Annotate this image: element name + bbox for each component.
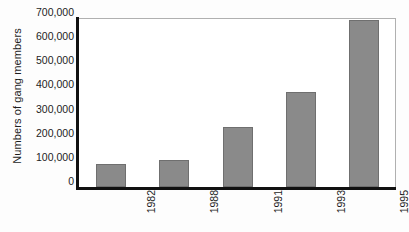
x-axis-tick-label: 1995 bbox=[398, 190, 409, 230]
bar-series-group bbox=[79, 18, 396, 187]
bar bbox=[159, 160, 189, 187]
y-axis-tick-label: 400,000 bbox=[16, 79, 74, 90]
y-axis-tick-label: 600,000 bbox=[16, 31, 74, 42]
bar bbox=[223, 127, 253, 187]
x-axis-tick-label: 1993 bbox=[335, 190, 347, 230]
y-axis-tick-label: 100,000 bbox=[16, 152, 74, 163]
y-axis-tick-label: 200,000 bbox=[16, 128, 74, 139]
x-axis-tick-label: 1991 bbox=[272, 190, 284, 230]
y-axis-tick-label: 700,000 bbox=[16, 7, 74, 18]
x-axis-tick-label-group: 19821988199119931995 bbox=[79, 190, 396, 232]
bar-chart-figure: Numbers of gang members 0100,000200,0003… bbox=[0, 0, 409, 232]
y-axis-tick-label: 500,000 bbox=[16, 55, 74, 66]
bar bbox=[96, 164, 126, 187]
x-axis-tick-label: 1982 bbox=[145, 190, 157, 230]
y-axis-tick-label: 300,000 bbox=[16, 104, 74, 115]
x-axis-tick-label: 1988 bbox=[208, 190, 220, 230]
bar bbox=[349, 20, 379, 187]
y-axis-tick-label-group: 0100,000200,000300,000400,000500,000600,… bbox=[16, 12, 74, 194]
y-axis-tick-label: 0 bbox=[16, 176, 74, 187]
bar bbox=[286, 92, 316, 187]
